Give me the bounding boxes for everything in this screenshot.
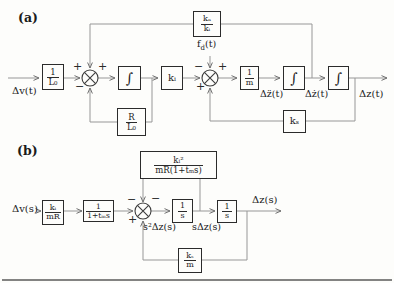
panel-a-input-label: Δv(t): [12, 85, 37, 96]
denominator: s: [222, 212, 231, 220]
fraction: 1 1+tₘs: [86, 203, 111, 220]
disturbance-label: fd(t): [197, 38, 216, 52]
fraction: 1 m: [245, 69, 255, 87]
integral-symbol: ∫: [335, 71, 342, 86]
gain-label: kₛ: [290, 116, 299, 127]
sum1-sign-top-left: +: [73, 60, 82, 73]
block-gain-ks: kₛ: [283, 110, 306, 133]
fraction: kᵢ² mR(1+tₘs): [154, 156, 203, 175]
sum2-sign-bottom-left: +: [196, 80, 205, 93]
fraction: kₐ kᵢ: [201, 15, 213, 33]
velocity-s-signal-label: sΔz(s): [192, 221, 221, 232]
numerator: R: [126, 113, 137, 123]
disturbance-rest: (t): [205, 38, 216, 49]
block-ki2-over-mR-1-plus-tms: kᵢ² mR(1+tₘs): [140, 151, 217, 179]
block-1-over-m: 1 m: [240, 66, 259, 90]
panel-b-label: (b): [17, 143, 38, 158]
panel-b-output-label: Δz(s): [252, 194, 277, 205]
block-R-over-L0: R L₀: [117, 108, 146, 136]
panel-b-input-label: Δv(s): [12, 203, 38, 214]
panel-a-label: (a): [18, 10, 38, 25]
denominator: m: [184, 261, 196, 269]
sum1-sign-top-right: +: [98, 60, 107, 73]
velocity-signal-label: Δż(t): [305, 88, 328, 99]
fraction: R L₀: [126, 113, 137, 132]
block-integrator-3: ∫: [328, 66, 349, 90]
denominator: s: [178, 212, 187, 220]
block-ki-over-mR: kᵢ mR: [42, 200, 64, 225]
sum3-sign-top-right: −: [151, 192, 160, 205]
fraction: 1 s: [222, 203, 231, 221]
numerator: 1: [47, 68, 58, 78]
block-integrator-1: ∫: [118, 66, 141, 90]
fraction: kᵢ mR: [45, 204, 61, 222]
denominator: L₀: [47, 78, 58, 87]
sum2-sign-top-left: −: [194, 60, 203, 73]
fraction: 1 L₀: [47, 68, 58, 87]
panel-a-output-label: Δz(t): [359, 88, 383, 99]
sum3-sign-bottom-left: +: [128, 213, 137, 226]
sum-junction-3: [135, 203, 151, 219]
block-gain-ki: kᵢ: [161, 66, 183, 90]
sum3-sign-top-left: −: [127, 193, 136, 206]
sum1-sign-bottom-left: −: [75, 80, 84, 93]
accel-s-signal-label: s²Δz(s): [143, 221, 176, 232]
block-ks-over-m: kₛ m: [178, 248, 202, 273]
denominator: mR(1+tₘs): [154, 166, 203, 175]
fraction: 1 s: [178, 202, 187, 220]
numerator: kᵢ²: [154, 156, 203, 166]
fraction: kₛ m: [184, 252, 196, 270]
block-1-over-s-first: 1 s: [172, 199, 193, 223]
block-1-over-s-second: 1 s: [217, 200, 237, 223]
block-diagram-figure: (a) Δv(t) 1 L₀ + + − ∫ kᵢ − + + 1 m Δz̈(…: [0, 0, 394, 283]
accel-signal-label: Δz̈(t): [260, 88, 283, 99]
denominator: L₀: [126, 123, 137, 132]
denominator: 1+tₘs: [86, 212, 111, 220]
block-lag-1-over-1-plus-tms: 1 1+tₘs: [83, 200, 114, 222]
sum2-sign-top-right: +: [218, 60, 227, 73]
denominator: mR: [45, 213, 61, 221]
integral-symbol: ∫: [290, 71, 297, 86]
block-integrator-2: ∫: [283, 66, 305, 90]
integral-symbol: ∫: [126, 71, 133, 86]
block-1-over-L0: 1 L₀: [42, 64, 64, 90]
denominator: kᵢ: [201, 25, 213, 33]
gain-label: kᵢ: [168, 73, 176, 84]
denominator: m: [245, 79, 255, 87]
sum-junction-1: [82, 70, 98, 86]
block-ka-over-ki: kₐ kᵢ: [193, 11, 221, 37]
